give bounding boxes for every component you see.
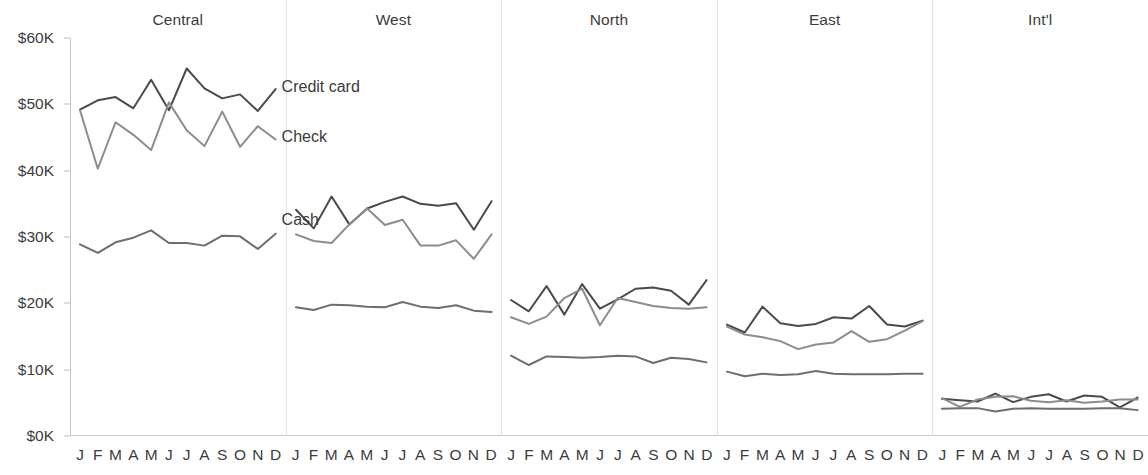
x-tick-label: N bbox=[683, 446, 694, 464]
x-tick-label: S bbox=[433, 446, 443, 464]
y-tick-label: $40K bbox=[18, 162, 54, 180]
plot-area bbox=[70, 38, 1148, 436]
panel-title-int-l: Int'l bbox=[932, 11, 1148, 29]
x-tick-label: J bbox=[596, 446, 604, 464]
series-line-cash bbox=[942, 408, 1138, 411]
x-tick-label: D bbox=[701, 446, 712, 464]
series-line-check bbox=[942, 396, 1138, 407]
series-line-check bbox=[80, 102, 276, 168]
x-tick-label: J bbox=[183, 446, 191, 464]
x-tick-group: JFMAMJJASOND bbox=[286, 436, 502, 475]
panel-central bbox=[70, 38, 286, 436]
x-tick-label: M bbox=[576, 446, 589, 464]
series-annotation-cash: Cash bbox=[282, 211, 319, 229]
x-tick-label: J bbox=[614, 446, 622, 464]
series-line-cash bbox=[511, 356, 707, 365]
x-tick-label: M bbox=[325, 446, 338, 464]
x-tick-label: N bbox=[899, 446, 910, 464]
series-line-credit-card bbox=[511, 280, 707, 314]
x-tick-label: N bbox=[468, 446, 479, 464]
y-axis: $0K$10K$20K$30K$40K$50K$60K bbox=[0, 0, 70, 475]
x-tick-label: J bbox=[830, 446, 838, 464]
x-tick-label: J bbox=[507, 446, 515, 464]
x-tick-group: JFMAMJJASOND bbox=[932, 436, 1148, 475]
y-tick-label: $60K bbox=[18, 29, 54, 47]
x-tick-label: J bbox=[292, 446, 300, 464]
series-line-credit-card bbox=[80, 69, 276, 111]
x-tick-label: F bbox=[309, 446, 318, 464]
x-tick-group: JFMAMJJASOND bbox=[717, 436, 933, 475]
x-tick-label: M bbox=[145, 446, 158, 464]
x-tick-label: J bbox=[398, 446, 406, 464]
x-tick-label: J bbox=[812, 446, 820, 464]
series-line-cash bbox=[727, 371, 923, 376]
series-line-check bbox=[296, 208, 492, 258]
panel-title-west: West bbox=[286, 11, 502, 29]
y-tick-label: $20K bbox=[18, 294, 54, 312]
x-tick-label: M bbox=[360, 446, 373, 464]
x-tick-label: A bbox=[128, 446, 138, 464]
panel-header-band: CentralWestNorthEastInt'l bbox=[0, 0, 1148, 38]
x-tick-label: D bbox=[917, 446, 928, 464]
x-tick-label: A bbox=[199, 446, 209, 464]
trellis-line-chart: CentralWestNorthEastInt'l $0K$10K$20K$30… bbox=[0, 0, 1148, 475]
panel-title-north: North bbox=[501, 11, 717, 29]
x-tick-label: O bbox=[665, 446, 677, 464]
x-tick-label: S bbox=[217, 446, 227, 464]
y-tick-label: $0K bbox=[26, 427, 54, 445]
x-tick-label: J bbox=[1045, 446, 1053, 464]
x-tick-label: J bbox=[939, 446, 947, 464]
series-line-credit-card bbox=[296, 197, 492, 230]
panel-east bbox=[717, 38, 933, 436]
y-tick-label: $50K bbox=[18, 95, 54, 113]
panel-int-l bbox=[932, 38, 1148, 436]
x-tick-label: F bbox=[524, 446, 533, 464]
series-annotation-check: Check bbox=[282, 128, 327, 146]
x-tick-label: J bbox=[76, 446, 84, 464]
x-tick-label: A bbox=[415, 446, 425, 464]
x-tick-label: M bbox=[791, 446, 804, 464]
y-tick-label: $10K bbox=[18, 361, 54, 379]
x-tick-label: N bbox=[1115, 446, 1126, 464]
x-tick-label: A bbox=[630, 446, 640, 464]
x-tick-label: S bbox=[1079, 446, 1089, 464]
x-tick-label: M bbox=[971, 446, 984, 464]
x-tick-label: A bbox=[775, 446, 785, 464]
x-tick-label: M bbox=[109, 446, 122, 464]
x-tick-label: J bbox=[723, 446, 731, 464]
panel-north bbox=[501, 38, 717, 436]
x-tick-label: D bbox=[486, 446, 497, 464]
series-line-cash bbox=[80, 230, 276, 253]
x-tick-label: D bbox=[1132, 446, 1143, 464]
x-tick-label: O bbox=[1096, 446, 1108, 464]
x-tick-label: N bbox=[252, 446, 263, 464]
x-tick-label: A bbox=[846, 446, 856, 464]
x-tick-label: J bbox=[165, 446, 173, 464]
x-tick-label: O bbox=[234, 446, 246, 464]
panel-title-east: East bbox=[717, 11, 933, 29]
x-tick-label: J bbox=[1027, 446, 1035, 464]
x-tick-label: D bbox=[270, 446, 281, 464]
x-tick-label: S bbox=[864, 446, 874, 464]
x-tick-label: A bbox=[1062, 446, 1072, 464]
x-tick-label: A bbox=[991, 446, 1001, 464]
y-tick-label: $30K bbox=[18, 228, 54, 246]
x-tick-label: F bbox=[955, 446, 964, 464]
x-tick-label: M bbox=[540, 446, 553, 464]
x-tick-label: J bbox=[381, 446, 389, 464]
x-tick-label: M bbox=[756, 446, 769, 464]
series-line-cash bbox=[296, 302, 492, 312]
x-tick-label: F bbox=[740, 446, 749, 464]
panel-title-central: Central bbox=[70, 11, 286, 29]
x-tick-label: A bbox=[559, 446, 569, 464]
x-tick-label: S bbox=[648, 446, 658, 464]
series-line-credit-card bbox=[727, 306, 923, 333]
x-tick-label: F bbox=[93, 446, 102, 464]
x-tick-label: A bbox=[344, 446, 354, 464]
x-tick-group: JFMAMJJASOND bbox=[501, 436, 717, 475]
x-tick-label: M bbox=[1007, 446, 1020, 464]
x-axis: JFMAMJJASONDJFMAMJJASONDJFMAMJJASONDJFMA… bbox=[70, 436, 1148, 475]
series-annotation-credit-card: Credit card bbox=[282, 78, 360, 96]
x-tick-label: O bbox=[881, 446, 893, 464]
x-tick-label: O bbox=[450, 446, 462, 464]
